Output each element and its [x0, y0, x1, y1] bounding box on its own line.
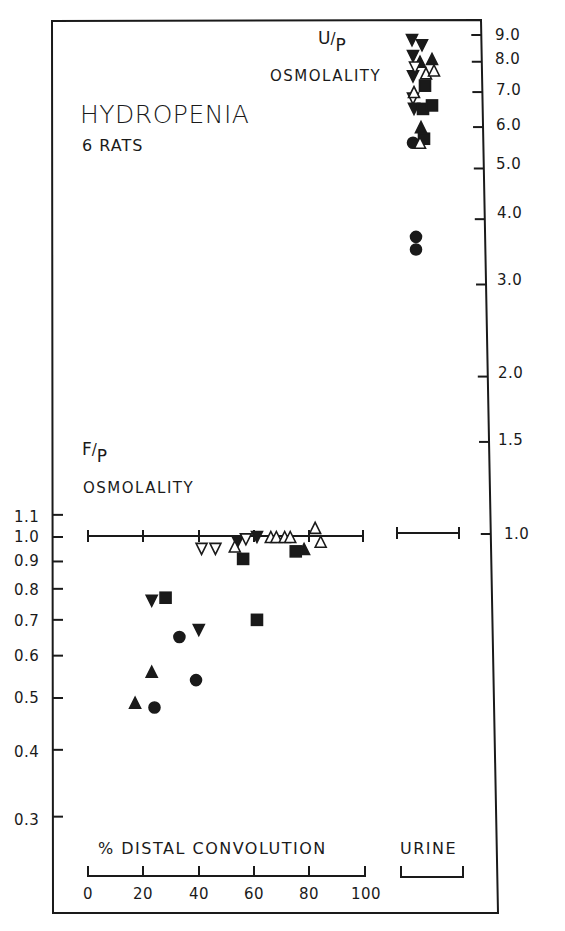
right-tick-label: 6.0 — [496, 118, 521, 133]
filled-inverted-triangle-marker — [146, 595, 157, 606]
x-tick-label: 0 — [83, 887, 93, 902]
x-tick-label: 100 — [351, 887, 381, 902]
open-triangle-marker — [409, 87, 420, 98]
filled-inverted-triangle-marker — [408, 51, 419, 62]
filled-circle-marker — [174, 632, 185, 643]
open-triangle-marker — [310, 522, 321, 533]
up-ratio-label: U/P — [318, 30, 346, 47]
filled-square-marker — [427, 100, 438, 111]
filled-circle-marker — [411, 231, 422, 242]
filled-triangle-marker — [146, 666, 157, 677]
filled-square-marker — [160, 592, 171, 603]
fp-ratio-label: F/P — [82, 441, 107, 458]
right-tick-label: 3.0 — [497, 273, 522, 288]
open-inverted-triangle-marker — [210, 543, 221, 554]
chart-subtitle: 6 RATS — [82, 138, 143, 154]
left-tick-label: 0.5 — [14, 691, 39, 706]
filled-square-marker — [290, 546, 301, 557]
fp-axis-name: OSMOLALITY — [83, 481, 194, 496]
filled-square-marker — [251, 614, 262, 625]
right-tick-label: 1.0 — [504, 527, 529, 542]
left-tick-label: 0.6 — [14, 649, 39, 664]
filled-triangle-marker — [427, 53, 438, 64]
left-tick-label: 0.4 — [14, 745, 39, 760]
right-tick-label: 7.0 — [496, 83, 521, 98]
urine-label: URINE — [400, 841, 457, 857]
hydropenia-figure: HYDROPENIA 6 RATS U/P OSMOLALITY F/P OSM… — [0, 0, 565, 931]
x-axis-name: % DISTAL CONVOLUTION — [98, 841, 327, 857]
left-tick-label: 0.7 — [14, 614, 39, 629]
filled-inverted-triangle-marker — [417, 40, 428, 51]
left-tick-label: 0.8 — [14, 583, 39, 598]
right-tick-label: 9.0 — [495, 28, 520, 43]
urine-bracket — [401, 866, 463, 877]
left-tick-label: 0.9 — [14, 554, 39, 569]
x-tick-label: 80 — [299, 887, 319, 902]
filled-circle-marker — [191, 675, 202, 686]
filled-circle-marker — [149, 702, 160, 713]
right-tick-label: 8.0 — [495, 52, 520, 67]
filled-inverted-triangle-marker — [193, 625, 204, 636]
urine-reference-line — [397, 527, 459, 539]
data-markers — [130, 35, 440, 713]
left-tick-label: 0.3 — [14, 813, 39, 828]
right-tick-label: 2.0 — [498, 366, 523, 381]
filled-inverted-triangle-marker — [408, 71, 419, 82]
open-triangle-marker — [429, 65, 440, 76]
filled-square-marker — [238, 553, 249, 564]
x-tick-label: 60 — [244, 887, 264, 902]
chart-title: HYDROPENIA — [80, 102, 249, 127]
open-triangle-marker — [315, 536, 326, 547]
up-axis-name: OSMOLALITY — [270, 69, 381, 84]
filled-circle-marker — [411, 244, 422, 255]
fp-ratio-numerator: F — [82, 439, 92, 459]
right-tick-label: 1.5 — [498, 433, 523, 448]
x-tick-label: 20 — [133, 887, 153, 902]
up-ratio-denominator: P — [336, 35, 346, 55]
right-axis-ticks — [471, 35, 490, 534]
x-axis — [88, 866, 365, 877]
filled-triangle-marker — [130, 697, 141, 708]
filled-square-marker — [420, 80, 431, 91]
filled-triangle-marker — [416, 122, 427, 133]
left-tick-label: 1.1 — [14, 510, 39, 525]
up-ratio-numerator: U — [318, 28, 330, 48]
right-tick-label: 5.0 — [496, 157, 521, 172]
left-tick-label: 1.0 — [14, 530, 39, 545]
right-tick-label: 4.0 — [497, 206, 522, 221]
fp-ratio-denominator: P — [97, 446, 107, 466]
x-tick-label: 40 — [189, 887, 209, 902]
open-inverted-triangle-marker — [196, 543, 207, 554]
